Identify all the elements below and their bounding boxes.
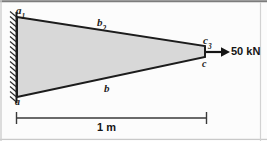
- node-label-c3: c3: [203, 35, 212, 49]
- node-label-a1: a1: [16, 5, 25, 19]
- node-label-a: a: [15, 97, 20, 107]
- dimension-label: 1 m: [97, 122, 116, 133]
- force-label: 50 kN: [231, 46, 260, 57]
- node-label-c: c: [202, 59, 206, 69]
- beam-diagram-figure: a1 b2 c3 c b a 50 kN 1 m: [0, 0, 267, 141]
- edge-label-b: b: [104, 83, 110, 94]
- diagram-canvas: [0, 0, 267, 141]
- tapered-beam-body: [17, 17, 205, 97]
- edge-label-b2: b2: [97, 17, 106, 31]
- fixed-wall-support: [10, 12, 17, 104]
- beam-outline: [17, 17, 205, 97]
